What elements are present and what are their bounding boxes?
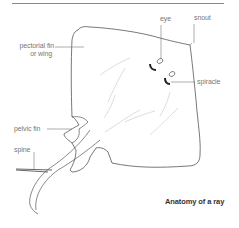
label-snout: snout xyxy=(194,14,211,22)
eye-icon xyxy=(156,58,163,65)
body-texture-lines xyxy=(100,58,178,135)
ray-body-outline xyxy=(64,27,200,172)
label-spiracle: spiracle xyxy=(197,78,220,86)
diagram-caption: Anatomy of a ray xyxy=(165,197,224,206)
label-pectoral-fin-line1: pectorial fin xyxy=(10,42,54,50)
label-pectoral-fin-line2: or wing xyxy=(10,50,52,58)
label-eye: eye xyxy=(160,15,171,23)
spiracle-mark xyxy=(150,64,156,70)
label-pelvic-fin: pelvic fin xyxy=(14,125,40,133)
label-spine: spine xyxy=(14,146,30,154)
spiracle-mark-2 xyxy=(165,78,170,84)
eye-icon-2 xyxy=(168,71,175,78)
pelvic-fin-outline xyxy=(72,117,88,143)
ray-illustration xyxy=(0,0,239,228)
tail-outline xyxy=(30,130,100,214)
